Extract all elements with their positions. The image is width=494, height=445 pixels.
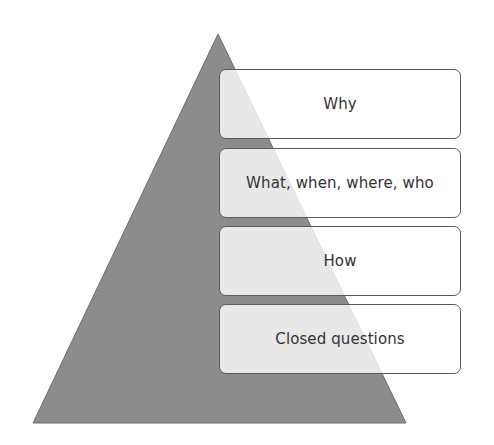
- level-label: What, when, where, who: [246, 174, 434, 192]
- question-pyramid-diagram: Why What, when, where, who How Closed qu…: [0, 0, 494, 445]
- pyramid-level-what-when-where-who: What, when, where, who: [219, 148, 461, 218]
- level-label: Closed questions: [275, 330, 404, 348]
- level-label: Why: [323, 95, 357, 113]
- pyramid-level-how: How: [219, 226, 461, 296]
- level-label: How: [323, 252, 356, 270]
- pyramid-level-closed-questions: Closed questions: [219, 304, 461, 374]
- pyramid-level-why: Why: [219, 69, 461, 139]
- pyramid-triangle: [0, 0, 494, 445]
